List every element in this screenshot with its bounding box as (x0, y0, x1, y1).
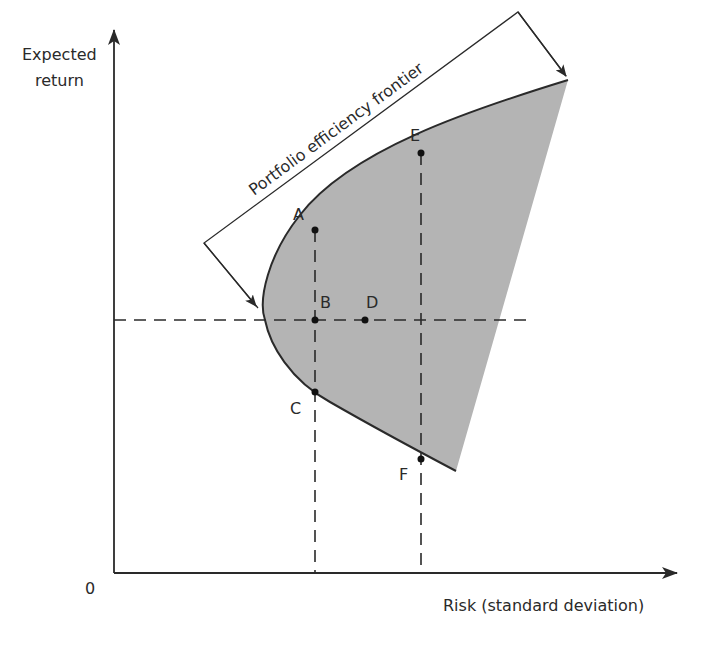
bracket-arrow-right (518, 12, 566, 76)
x-axis-label: Risk (standard deviation) (443, 596, 644, 615)
svg-text:F: F (399, 465, 408, 484)
y-axis-label-line2: return (35, 71, 84, 90)
y-axis-label-line1: Expected (22, 45, 97, 64)
svg-text:E: E (410, 126, 420, 145)
svg-text:B: B (320, 293, 331, 312)
svg-text:C: C (290, 399, 301, 418)
origin-label: 0 (85, 579, 95, 598)
svg-text:D: D (366, 293, 378, 312)
bracket-arrow-left (204, 243, 256, 306)
efficient-frontier-diagram: Portfolio efficiency frontier Expected r… (0, 0, 707, 646)
svg-text:A: A (293, 205, 304, 224)
